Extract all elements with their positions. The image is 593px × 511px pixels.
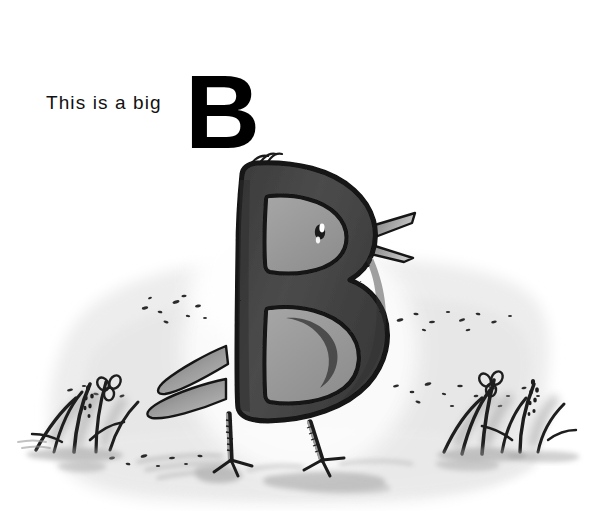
- caption-text: This is a big: [46, 93, 162, 112]
- illustration-bird-letter-b: [0, 140, 593, 511]
- caption-line: This is a big B: [0, 0, 593, 140]
